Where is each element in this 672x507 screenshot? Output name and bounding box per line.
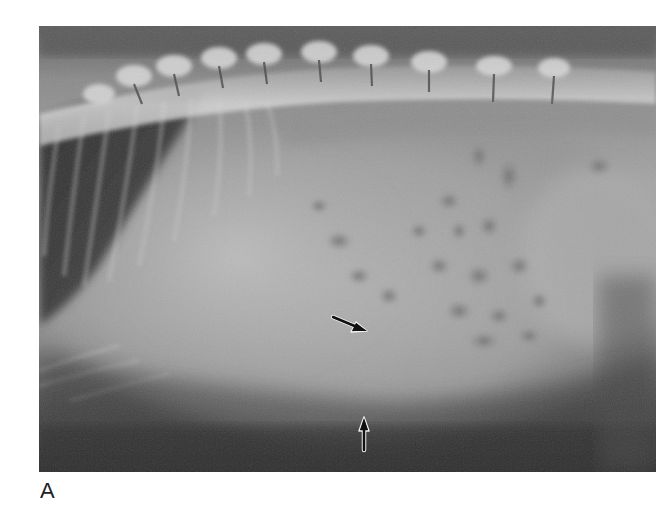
radiograph-svg: [39, 26, 656, 472]
panel-label: A: [40, 478, 55, 504]
radiograph-image: [39, 26, 656, 472]
figure-panel: A: [0, 0, 672, 507]
